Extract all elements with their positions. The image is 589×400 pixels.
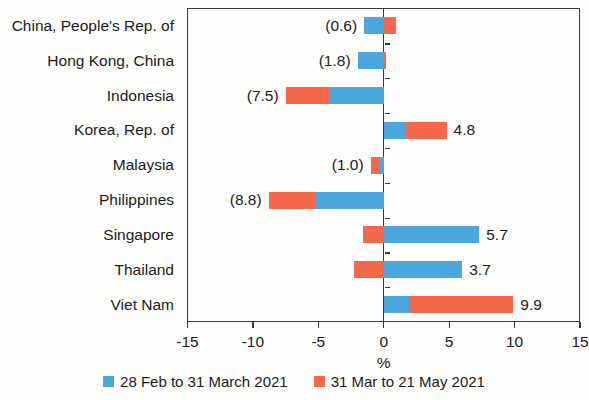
bar-segment-period-2 — [354, 261, 384, 278]
legend-swatch-icon — [103, 376, 114, 387]
bar-value-label: (1.0) — [0, 158, 364, 174]
bar-segment-period-1 — [364, 17, 384, 34]
bar-value-label: 4.8 — [454, 123, 476, 139]
bar-value-label: (7.5) — [0, 88, 279, 104]
bar-segment-period-2 — [384, 52, 387, 69]
bar-segment-period-2 — [269, 192, 316, 209]
bar-segment-period-1 — [384, 296, 409, 313]
bar-segment-period-2 — [371, 157, 380, 174]
legend-swatch-icon — [314, 376, 325, 387]
legend-item[interactable]: 31 Mar to 21 May 2021 — [314, 374, 485, 389]
bar-value-label: 3.7 — [469, 262, 491, 278]
x-axis-tick — [514, 322, 515, 328]
zero-axis-tick — [385, 78, 390, 79]
bar-segment-period-1 — [384, 226, 480, 243]
x-axis-tick-label: -5 — [311, 334, 325, 350]
bar-value-label: 5.7 — [486, 227, 508, 243]
bar-segment-period-2 — [409, 296, 514, 313]
x-axis-tick-label: -10 — [242, 334, 264, 350]
zero-axis-tick — [385, 148, 390, 149]
table-row — [0, 122, 588, 139]
bar-segment-period-1 — [384, 122, 405, 139]
bar-segment-period-2 — [384, 17, 396, 34]
x-axis-tick — [252, 322, 253, 328]
x-axis-tick-label: 10 — [506, 334, 523, 350]
zero-axis-tick — [385, 218, 390, 219]
bar-segment-period-1 — [380, 157, 384, 174]
x-axis-tick-label: 15 — [571, 334, 588, 350]
x-axis-tick — [579, 322, 580, 328]
x-axis-tick — [449, 322, 450, 328]
x-axis-tick-label: -15 — [176, 334, 198, 350]
x-axis-tick-label: 0 — [379, 334, 388, 350]
bar-segment-period-1 — [316, 192, 384, 209]
bar-value-label: (8.8) — [0, 192, 262, 208]
bar-segment-period-1 — [329, 87, 384, 104]
zero-axis-tick — [385, 43, 390, 44]
bar-segment-period-2 — [405, 122, 447, 139]
bar-segment-period-2 — [286, 87, 329, 104]
chart-legend: 28 Feb to 31 March 202131 Mar to 21 May … — [0, 374, 588, 389]
legend-label: 31 Mar to 21 May 2021 — [331, 374, 485, 389]
zero-axis-tick — [385, 113, 390, 114]
x-axis-tick — [318, 322, 319, 328]
bar-segment-period-1 — [384, 261, 463, 278]
table-row — [0, 261, 588, 278]
zero-axis-tick — [385, 287, 390, 288]
legend-item[interactable]: 28 Feb to 31 March 2021 — [103, 374, 288, 389]
bar-value-label: 9.9 — [520, 297, 542, 313]
bar-value-label: (0.6) — [0, 18, 357, 34]
x-axis-tick — [187, 322, 188, 328]
x-axis-tick — [383, 322, 384, 328]
bar-segment-period-2 — [363, 226, 384, 243]
zero-axis-tick — [385, 252, 390, 253]
bar-segment-period-1 — [358, 52, 384, 69]
x-axis-tick-label: 5 — [445, 334, 454, 350]
table-row — [0, 296, 588, 313]
x-axis-title: % — [377, 355, 391, 371]
zero-axis-tick — [385, 183, 390, 184]
legend-label: 28 Feb to 31 March 2021 — [120, 374, 288, 389]
bar-value-label: (1.8) — [0, 53, 351, 69]
